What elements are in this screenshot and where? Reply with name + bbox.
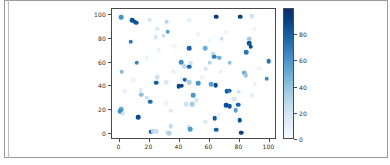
- x-axis-tick-label: 60: [204, 143, 212, 150]
- y-axis-tick: [108, 62, 111, 63]
- scatter-point: [171, 69, 176, 74]
- scatter-point: [227, 104, 232, 109]
- scatter-point: [219, 36, 224, 41]
- x-axis-tick-label: 40: [174, 143, 182, 150]
- scatter-point: [122, 89, 127, 94]
- x-axis-tick: [269, 139, 270, 142]
- scatter-point: [167, 131, 172, 136]
- scatter-point: [232, 97, 237, 102]
- x-axis-tick: [119, 139, 120, 142]
- x-axis-tick-label: 0: [116, 143, 120, 150]
- scatter-point: [218, 69, 223, 74]
- scatter-point: [120, 112, 125, 117]
- scatter-point: [239, 131, 244, 136]
- colorbar-tick-label: 40: [299, 83, 307, 90]
- scatter-point: [134, 20, 139, 25]
- scatter-point: [168, 124, 173, 129]
- scatter-point: [243, 73, 248, 78]
- scatter-point: [176, 84, 181, 89]
- x-axis-tick-label: 20: [144, 143, 152, 150]
- scatter-point: [144, 56, 149, 61]
- scatter-point: [264, 76, 269, 81]
- scatter-point: [249, 14, 254, 19]
- scatter-point: [139, 92, 144, 97]
- scatter-point: [214, 14, 219, 19]
- scatter-point: [266, 59, 271, 64]
- scatter-point: [227, 88, 232, 93]
- screenshot-root: 020406080100020406080100020406080: [0, 0, 390, 165]
- scatter-point: [187, 18, 192, 23]
- y-axis-tick: [108, 38, 111, 39]
- scatter-point: [147, 17, 152, 22]
- scatter-point: [131, 78, 136, 83]
- scatter-point: [195, 32, 200, 37]
- scatter-point: [213, 83, 218, 88]
- scatter-point: [257, 66, 262, 71]
- scatter-point: [155, 26, 160, 31]
- scatter-point: [238, 14, 243, 19]
- scatter-point: [148, 100, 153, 105]
- colorbar-tick: [294, 113, 297, 114]
- scatter-point: [136, 115, 141, 120]
- y-axis-tick-label: 40: [98, 82, 106, 89]
- colorbar-tick: [294, 139, 297, 140]
- scatter-point: [249, 93, 254, 98]
- scatter-point: [164, 101, 169, 106]
- scatter-point: [252, 82, 257, 87]
- matplotlib-figure: 020406080100020406080100020406080: [0, 0, 390, 158]
- scatter-point: [194, 98, 199, 103]
- x-axis-tick: [149, 139, 150, 142]
- scatter-point: [187, 80, 192, 85]
- scatter-point: [154, 129, 159, 134]
- scatter-point: [216, 113, 221, 118]
- scatter-point: [153, 35, 158, 40]
- colorbar-tick: [294, 60, 297, 61]
- colorbar-gradient: [284, 9, 293, 138]
- y-axis-tick-label: 20: [98, 106, 106, 113]
- y-axis-tick: [108, 85, 111, 86]
- scatter-point: [165, 29, 170, 34]
- colorbar-tick-label: 60: [299, 57, 307, 64]
- scatter-point: [196, 81, 201, 86]
- colorbar-tick: [294, 87, 297, 88]
- scatter-point: [119, 69, 124, 74]
- scatter-point: [207, 60, 212, 65]
- x-axis-tick: [179, 139, 180, 142]
- scatter-point: [134, 60, 139, 65]
- x-axis-tick-label: 80: [234, 143, 242, 150]
- scatter-point: [172, 44, 177, 49]
- colorbar-tick-label: 20: [299, 109, 307, 116]
- scatter-point: [203, 66, 208, 71]
- x-axis-tick-label: 100: [262, 143, 274, 150]
- scatter-point: [233, 108, 238, 113]
- scatter-point: [168, 109, 173, 114]
- scatter-point: [156, 48, 161, 53]
- y-axis-tick: [108, 133, 111, 134]
- y-axis-tick: [108, 109, 111, 110]
- scatter-point: [164, 80, 169, 85]
- colorbar-tick: [294, 34, 297, 35]
- scatter-point: [155, 75, 160, 80]
- x-axis-tick: [239, 139, 240, 142]
- scatter-point: [214, 128, 219, 133]
- scatter-point: [203, 119, 208, 124]
- scatter-point: [188, 127, 193, 132]
- y-axis-tick-label: 0: [102, 130, 106, 137]
- scatter-point: [212, 54, 217, 59]
- scatter-point: [187, 46, 192, 51]
- scatter-point: [161, 33, 166, 38]
- scatter-point: [236, 89, 241, 94]
- scatter-point: [184, 102, 189, 107]
- x-axis-tick: [209, 139, 210, 142]
- scatter-point: [154, 81, 159, 86]
- y-axis-tick-label: 80: [98, 34, 106, 41]
- y-axis-tick: [108, 14, 111, 15]
- scatter-point: [248, 44, 253, 49]
- scatter-point: [187, 64, 192, 69]
- scatter-point: [203, 46, 208, 51]
- scatter-point: [190, 102, 195, 107]
- y-axis-tick-label: 100: [94, 10, 106, 17]
- scatter-point: [224, 29, 229, 34]
- colorbar: [283, 8, 294, 139]
- scatter-point: [227, 60, 232, 65]
